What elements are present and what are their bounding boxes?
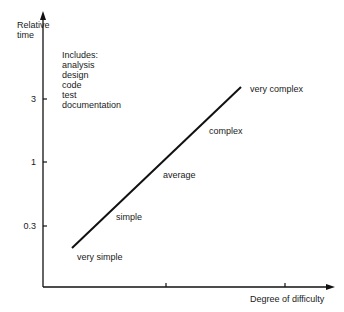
y-axis-label-line2: time	[17, 30, 50, 40]
includes-item: analysis	[62, 60, 121, 70]
point-label-very-simple: very simple	[77, 252, 123, 262]
x-axis-arrow-icon	[326, 284, 335, 290]
point-label-simple: simple	[116, 212, 142, 222]
includes-item: design	[62, 70, 121, 80]
x-axis-label: Degree of difficulty	[250, 294, 324, 304]
y-tick-label-1: 1	[12, 157, 36, 167]
y-tick-label-3: 3	[12, 94, 36, 104]
y-axis-label: Relative time	[17, 20, 50, 40]
includes-annotation: Includes: analysis design code test docu…	[62, 50, 121, 110]
y-axis-label-line1: Relative	[17, 20, 50, 30]
y-tick-label-0-3: 0.3	[12, 221, 36, 231]
y-axis-arrow-icon	[40, 11, 46, 20]
point-label-average: average	[163, 170, 196, 180]
point-label-complex: complex	[209, 126, 243, 136]
chart-canvas	[0, 0, 344, 312]
includes-item: code	[62, 80, 121, 90]
includes-item: documentation	[62, 100, 121, 110]
includes-item: test	[62, 90, 121, 100]
trend-line	[72, 87, 241, 248]
includes-heading: Includes:	[62, 50, 121, 60]
point-label-very-complex: very complex	[250, 84, 303, 94]
